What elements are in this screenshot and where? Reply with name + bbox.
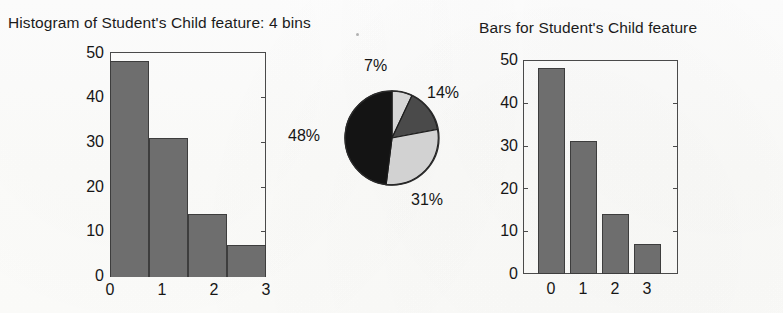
bars-ytick-mark-30	[524, 146, 528, 147]
bars-xtick-3: 3	[633, 281, 661, 297]
histogram-ytick-40: 40	[60, 89, 104, 105]
pie-label-48: 48%	[288, 128, 320, 144]
bars-ytick-mark-40-right	[673, 103, 677, 104]
bars-ytick-20: 20	[476, 181, 518, 197]
histogram-bar-2	[188, 214, 227, 277]
pie-slice-31	[386, 129, 438, 185]
histogram-bar-1	[149, 138, 188, 277]
bars-xtick-2: 2	[601, 281, 629, 297]
scan-speck	[356, 33, 359, 36]
histogram-ytick-10: 10	[60, 223, 104, 239]
bars-xtick-0: 0	[537, 281, 565, 297]
bars-bar-0	[538, 68, 565, 274]
bars-ytick-mark-20	[524, 188, 528, 189]
bars-ytick-0: 0	[476, 266, 518, 282]
histogram-xtick-2: 2	[200, 282, 228, 298]
histogram-title: Histogram of Student's Child feature: 4 …	[8, 14, 311, 32]
bars-ytick-50: 50	[476, 52, 518, 68]
histogram-ytick-50: 50	[60, 45, 104, 61]
bars-ytick-mark-10-right	[673, 231, 677, 232]
bars-xtick-1: 1	[569, 281, 597, 297]
figure-panel: Histogram of Student's Child feature: 4 …	[0, 0, 783, 313]
histogram-bar-0	[110, 61, 149, 277]
pie-label-14: 14%	[427, 85, 459, 101]
pie-label-31: 31%	[411, 192, 443, 208]
bars-ytick-40: 40	[476, 95, 518, 111]
histogram-ytick-mark-10-right	[261, 231, 265, 232]
bars-bar-2	[602, 214, 629, 274]
histogram-xtick-3: 3	[252, 282, 280, 298]
histogram-ytick-mark-40-right	[261, 97, 265, 98]
pie-label-7: 7%	[364, 58, 387, 74]
bars-ytick-mark-40	[524, 103, 528, 104]
histogram-bar-3	[227, 245, 266, 277]
bars-ytick-mark-20-right	[673, 188, 677, 189]
bars-ytick-10: 10	[476, 223, 518, 239]
histogram-ytick-mark-20-right	[261, 187, 265, 188]
histogram-ytick-30: 30	[60, 134, 104, 150]
pie-chart	[344, 90, 440, 186]
histogram-ytick-20: 20	[60, 179, 104, 195]
bars-title: Bars for Student's Child feature	[479, 19, 697, 37]
bars-bar-1	[570, 141, 597, 274]
bars-ytick-mark-30-right	[673, 146, 677, 147]
pie-slice-48	[345, 91, 392, 185]
pie-chart-svg	[344, 90, 440, 186]
histogram-ytick-mark-30-right	[261, 142, 265, 143]
histogram-xtick-0: 0	[96, 282, 124, 298]
bars-bar-3	[634, 244, 661, 274]
histogram-xtick-1: 1	[148, 282, 176, 298]
bars-ytick-30: 30	[476, 138, 518, 154]
bars-ytick-mark-10	[524, 231, 528, 232]
